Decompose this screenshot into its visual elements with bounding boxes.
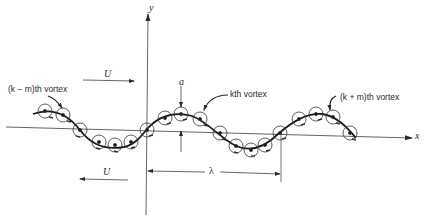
x-axis-label: x bbox=[415, 131, 419, 141]
upper-flow-label: U bbox=[104, 69, 111, 79]
vortex-row bbox=[38, 104, 357, 157]
vortex bbox=[258, 138, 272, 152]
vortex bbox=[292, 112, 306, 126]
wavelength-arrow-left bbox=[148, 171, 205, 172]
pointer-k-plus-m bbox=[330, 96, 336, 110]
pointer-k bbox=[204, 95, 228, 110]
lower-flow-arrow bbox=[80, 179, 128, 180]
vortex bbox=[73, 123, 87, 137]
vortex bbox=[273, 126, 287, 140]
vortex-k-label: kth vortex bbox=[230, 90, 267, 99]
vortex-k-plus-m-label: (k + m)th vortex bbox=[340, 93, 399, 102]
y-axis bbox=[146, 14, 148, 215]
vortex bbox=[108, 138, 122, 152]
wavelength-arrow-right bbox=[220, 172, 280, 174]
vortex bbox=[229, 139, 243, 153]
y-axis-label: y bbox=[149, 3, 153, 13]
wavelength-label: λ bbox=[209, 166, 214, 176]
amplitude-label: a bbox=[179, 77, 184, 87]
vortex-k-minus-m-label: (k − m)th vortex bbox=[8, 85, 67, 94]
vortex bbox=[244, 143, 258, 157]
diagram-canvas bbox=[0, 0, 425, 224]
lower-flow-label: U bbox=[103, 167, 110, 177]
upper-flow-arrow bbox=[83, 80, 134, 81]
vortex bbox=[326, 110, 340, 124]
vortex bbox=[343, 126, 357, 140]
